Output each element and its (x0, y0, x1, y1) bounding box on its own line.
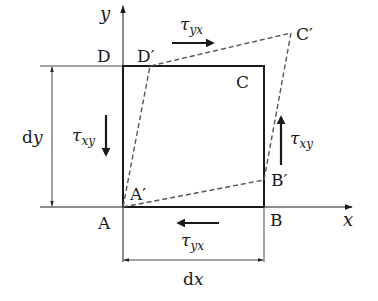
tau-yx-bottom-label: τyx (181, 230, 204, 253)
point-d-prime-label: D′ (137, 46, 155, 66)
dy-label: dy (22, 127, 43, 147)
point-c-label: C (236, 72, 249, 92)
y-axis-label: y (99, 3, 111, 24)
tau-xy-right-label: τxy (290, 128, 313, 151)
point-b-label: B (270, 210, 283, 230)
point-a-label: A (97, 213, 111, 233)
tau-xy-left-label: τxy (72, 125, 95, 148)
x-axis-label: x (343, 209, 353, 230)
tau-yx-top-label: τyx (180, 14, 203, 37)
point-d-label: D (97, 46, 111, 66)
point-b-prime-label: B′ (271, 170, 287, 190)
point-c-prime-label: C′ (296, 24, 313, 44)
shear-deformation-diagram: y x D D′ C C′ B′ B A A′ τyx τyx τxy τxy … (0, 0, 378, 301)
point-a-prime-label: A′ (129, 184, 146, 204)
dx-label: dx (183, 269, 204, 289)
